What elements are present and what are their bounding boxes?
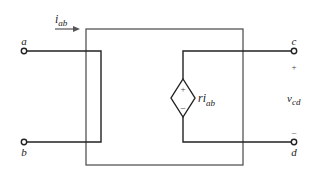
output-wire-top — [183, 51, 291, 79]
voltage-plus-sign: + — [291, 62, 296, 72]
current-label: iab — [55, 12, 68, 28]
source-minus-sign: − — [180, 103, 186, 114]
output-wire-bottom — [183, 117, 291, 142]
terminal-d — [291, 139, 296, 144]
voltage-minus-sign: – — [291, 127, 297, 137]
voltage-label: vcd — [287, 92, 301, 107]
two-port-box — [86, 29, 243, 165]
terminal-b — [21, 139, 26, 144]
terminal-a — [21, 48, 26, 53]
terminal-d-label: d — [291, 146, 297, 158]
current-arrow-icon — [73, 26, 80, 32]
terminal-c — [291, 48, 296, 53]
terminal-b-label: b — [21, 146, 27, 158]
source-plus-sign: + — [180, 84, 185, 94]
terminal-a-label: a — [21, 35, 27, 47]
terminal-c-label: c — [292, 35, 297, 47]
source-label: riab — [198, 91, 216, 108]
input-port-wire — [27, 51, 101, 142]
circuit-diagram: + − riab a b c d iab + vcd – — [0, 0, 315, 175]
